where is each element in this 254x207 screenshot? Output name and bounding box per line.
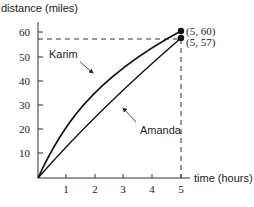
x-tick-5: 5	[178, 183, 184, 195]
x-axis-label: time (hours)	[194, 172, 253, 184]
y-tick-30: 30	[19, 99, 31, 111]
y-tick-40: 40	[19, 75, 31, 87]
amanda-arrow	[123, 108, 136, 122]
y-ticks	[38, 32, 43, 153]
y-tick-20: 20	[19, 123, 31, 135]
distance-time-chart: distance (miles) 10 20 30 40 50 60 1 2 3…	[0, 0, 254, 207]
y-tick-10: 10	[19, 147, 31, 159]
x-tick-4: 4	[149, 183, 155, 195]
karim-label: Karim	[49, 48, 78, 60]
karim-arrow	[80, 62, 93, 73]
label-5-57: (5, 57)	[186, 36, 216, 49]
x-tick-labels: 1 2 3 4 5	[63, 183, 184, 195]
amanda-label: Amanda	[140, 124, 182, 136]
y-tick-labels: 10 20 30 40 50 60	[19, 26, 31, 159]
x-tick-2: 2	[92, 183, 98, 195]
point-5-60	[178, 28, 184, 34]
y-tick-60: 60	[19, 26, 31, 38]
y-axis-label: distance (miles)	[1, 2, 78, 14]
x-tick-3: 3	[120, 183, 126, 195]
x-ticks	[66, 174, 181, 178]
y-tick-50: 50	[19, 51, 31, 63]
x-tick-1: 1	[63, 183, 69, 195]
point-5-57	[178, 35, 184, 41]
